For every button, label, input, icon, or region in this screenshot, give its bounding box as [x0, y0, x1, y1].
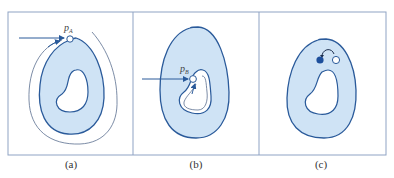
point-pa-marker — [67, 36, 73, 42]
filled-point-marker — [316, 56, 323, 63]
hollow-point-marker — [332, 56, 339, 63]
panel-b: pB — [142, 27, 229, 138]
panel-a: pA — [19, 22, 117, 144]
panel-c — [287, 39, 356, 138]
figure-three-panels: pA pB — [0, 0, 394, 178]
point-pa-label: pA — [63, 22, 73, 34]
caption-b: (b) — [176, 158, 216, 170]
point-pb-marker — [190, 76, 197, 83]
caption-c: (c) — [301, 158, 341, 170]
caption-a: (a) — [51, 158, 91, 170]
